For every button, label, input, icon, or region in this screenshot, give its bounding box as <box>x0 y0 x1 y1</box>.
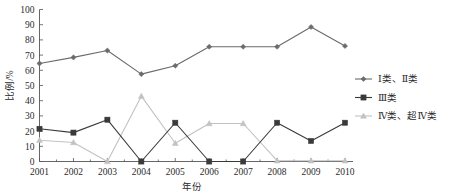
series-2-point-square-marker <box>173 120 178 125</box>
series-2-point-square-marker <box>139 159 144 164</box>
series-2-point-square-marker <box>37 126 42 131</box>
y-axis-title: 比例/% <box>4 70 15 101</box>
series-2-point-square-marker <box>105 117 110 122</box>
plot-area: 0102030405060708090100200120022003200420… <box>4 5 437 192</box>
y-tick-label: 20 <box>25 127 35 137</box>
x-tick-label: 2002 <box>64 167 83 177</box>
series-line-1 <box>40 27 346 74</box>
series-3-point-triangle-marker <box>138 93 144 98</box>
series-line-3 <box>40 96 346 161</box>
legend-1-diamond-marker <box>361 76 366 81</box>
series-2-point-square-marker <box>342 120 347 125</box>
legend-label-1: Ⅰ类、Ⅱ类 <box>378 73 418 84</box>
y-tick-label: 10 <box>25 142 35 152</box>
series-1-point-diamond-marker <box>71 55 76 60</box>
line-chart: 0102030405060708090100200120022003200420… <box>0 0 460 196</box>
x-axis-title: 年份 <box>182 181 202 192</box>
series-2-point-square-marker <box>308 138 313 143</box>
chart-canvas: 0102030405060708090100200120022003200420… <box>0 0 460 196</box>
series-1-point-diamond-marker <box>308 24 313 29</box>
y-tick-label: 40 <box>25 96 35 106</box>
series-1-point-diamond-marker <box>275 44 280 49</box>
series-1-point-diamond-marker <box>207 44 212 49</box>
x-tick-label: 2003 <box>98 167 117 177</box>
series-2-point-square-marker <box>71 130 76 135</box>
y-tick-label: 30 <box>25 111 35 121</box>
x-tick-label: 2001 <box>30 167 49 177</box>
x-tick-label: 2008 <box>268 167 287 177</box>
series-2-point-square-marker <box>241 159 246 164</box>
y-tick-label: 70 <box>25 51 35 61</box>
series-line-2 <box>40 120 346 162</box>
legend-label-3: Ⅳ类、超Ⅳ类 <box>378 110 437 121</box>
series-2-point-square-marker <box>275 120 280 125</box>
x-tick-label: 2010 <box>336 167 355 177</box>
series-1-point-diamond-marker <box>173 63 178 68</box>
x-tick-label: 2005 <box>166 167 185 177</box>
x-tick-label: 2006 <box>200 167 219 177</box>
series-1-point-diamond-marker <box>241 44 246 49</box>
y-tick-label: 0 <box>30 157 35 167</box>
legend-2-square-marker <box>361 95 366 100</box>
y-tick-label: 100 <box>20 5 35 15</box>
legend-label-2: Ⅲ类 <box>378 92 397 103</box>
x-tick-label: 2004 <box>132 167 151 177</box>
series-1-point-diamond-marker <box>342 43 347 48</box>
series-1-point-diamond-marker <box>37 61 42 66</box>
y-tick-label: 50 <box>25 81 35 91</box>
series-2-point-square-marker <box>207 159 212 164</box>
x-tick-label: 2009 <box>302 167 321 177</box>
x-tick-label: 2007 <box>234 167 253 177</box>
y-tick-label: 60 <box>25 66 35 76</box>
y-tick-label: 90 <box>25 20 35 30</box>
y-tick-label: 80 <box>25 35 35 45</box>
